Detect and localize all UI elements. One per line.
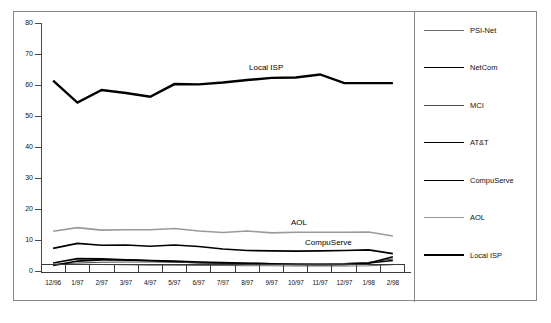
y-axis-tick (35, 209, 41, 210)
y-axis-tick (35, 240, 41, 241)
legend-divider (414, 11, 415, 302)
y-axis-tick-label: 70 (3, 50, 33, 57)
x-axis-tick-label: 8/97 (235, 278, 259, 290)
legend-swatch-line (424, 30, 464, 31)
legend-item-psi-net[interactable]: PSI-Net (424, 24, 540, 36)
legend-label: CompuServe (470, 176, 514, 185)
x-axis-tick-label: 6/97 (187, 278, 211, 290)
y-axis-tick-label: 30 (3, 174, 33, 181)
legend-item-netcom[interactable]: NetCom (424, 62, 540, 74)
legend-label: Local ISP (470, 251, 502, 260)
legend-item-at-t[interactable]: AT&T (424, 137, 540, 149)
legend-swatch-line (424, 254, 464, 256)
x-axis-labels: 12/961/972/973/974/975/976/977/978/979/9… (41, 278, 405, 290)
x-axis-tick-label: 11/97 (308, 278, 332, 290)
y-axis-tick (35, 85, 41, 86)
x-axis-baseline (41, 272, 411, 273)
y-axis-labels: 01020304050607080 (0, 0, 33, 283)
x-axis-tick-label: 4/97 (138, 278, 162, 290)
legend-item-local-isp[interactable]: Local ISP (424, 249, 540, 261)
y-axis-tick-label: 10 (3, 236, 33, 243)
x-axis-tick-label: 9/97 (259, 278, 283, 290)
legend-swatch-line (424, 180, 464, 181)
legend-item-compuserve[interactable]: CompuServe (424, 174, 540, 186)
x-axis-tick-label: 1/97 (65, 278, 89, 290)
x-axis-tick-label: 1/98 (356, 278, 380, 290)
x-axis-tick-label: 7/97 (211, 278, 235, 290)
legend-label: AOL (470, 213, 485, 222)
y-axis-tick (35, 54, 41, 55)
annotation-local-isp: Local ISP (249, 63, 283, 72)
x-axis-tick-label: 12/97 (332, 278, 356, 290)
legend-item-mci[interactable]: MCI (424, 99, 540, 111)
y-axis-tick (35, 116, 41, 117)
legend-item-aol[interactable]: AOL (424, 212, 540, 224)
x-axis-tick-label: 2/97 (90, 278, 114, 290)
legend-label: AT&T (470, 138, 489, 147)
x-axis-tick-label: 3/97 (114, 278, 138, 290)
y-axis-tick-label: 50 (3, 112, 33, 119)
legend-swatch-line (424, 217, 464, 218)
legend-swatch-line (424, 142, 464, 143)
x-axis-tick-label: 5/97 (162, 278, 186, 290)
y-axis-tick (35, 23, 41, 24)
annotation-compuserve: CompuServe (305, 238, 352, 247)
y-axis-tick-label: 40 (3, 143, 33, 150)
annotation-aol: AOL (291, 218, 307, 227)
y-axis-tick-label: 60 (3, 81, 33, 88)
legend-swatch-line (424, 105, 464, 106)
chart-legend: PSI-NetNetComMCIAT&TCompuServeAOLLocal I… (424, 24, 540, 286)
legend-label: PSI-Net (470, 26, 496, 35)
chart-screenshot: 01020304050607080 Local ISP AOL CompuSer… (0, 0, 551, 323)
legend-label: NetCom (470, 63, 498, 72)
x-axis-tick-label: 12/96 (41, 278, 65, 290)
series-line-aol (53, 228, 393, 236)
series-lines (41, 23, 405, 271)
y-axis-tick-label: 80 (3, 19, 33, 26)
y-axis-tick-label: 20 (3, 205, 33, 212)
legend-swatch-line (424, 67, 464, 68)
series-line-local-isp (53, 74, 393, 102)
y-axis-tick (35, 271, 41, 272)
x-axis-tick-label: 2/98 (381, 278, 405, 290)
y-axis-tick-label: 0 (3, 267, 33, 274)
y-axis-tick (35, 178, 41, 179)
x-axis-tick-label: 10/97 (284, 278, 308, 290)
y-axis-tick (35, 147, 41, 148)
legend-label: MCI (470, 101, 484, 110)
